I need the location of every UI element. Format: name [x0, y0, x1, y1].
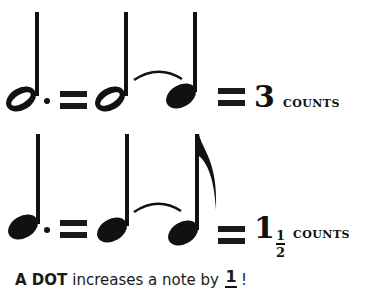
row1-result: 3 COUNTS [218, 82, 340, 112]
caption: A DOT increases a note by 1 ! [15, 270, 247, 289]
dot-icon [44, 227, 50, 233]
count-value: 1 [254, 213, 275, 243]
caption-fraction-bar [225, 286, 237, 288]
caption-emphasis: A DOT [15, 271, 67, 289]
quarter-note-icon [162, 12, 201, 114]
equals-sign-icon [60, 220, 87, 238]
count-value: 3 [254, 82, 275, 112]
flag-icon [199, 134, 216, 210]
equals-sign-icon [218, 88, 245, 106]
equals-sign-icon [218, 226, 245, 244]
tie-icon [134, 72, 182, 80]
dot-icon [44, 98, 50, 104]
fraction-numerator: 1 [276, 229, 285, 243]
half-note-icon [91, 12, 130, 117]
fraction-denominator: 2 [276, 245, 285, 259]
caption-ending: ! [241, 271, 247, 289]
dotted-notes-figure: 3 COUNTS 1 1 2 COUNTS A DOT increases a … [0, 0, 389, 300]
counts-label: COUNTS [283, 93, 340, 111]
caption-fraction-numerator: 1 [225, 269, 236, 285]
caption-fraction: 1 [225, 269, 237, 288]
eighth-note-icon [164, 134, 217, 251]
counts-label: COUNTS [293, 224, 350, 242]
quarter-note-icon [93, 134, 132, 248]
row2-result: 1 1 2 COUNTS [218, 213, 350, 257]
dotted-quarter-note-icon [4, 134, 50, 245]
tie-icon [134, 204, 181, 212]
caption-text: increases a note by [72, 271, 219, 289]
equals-sign-icon [60, 91, 87, 109]
dotted-half-note-icon [2, 12, 50, 117]
count-fraction: 1 2 [276, 229, 285, 259]
